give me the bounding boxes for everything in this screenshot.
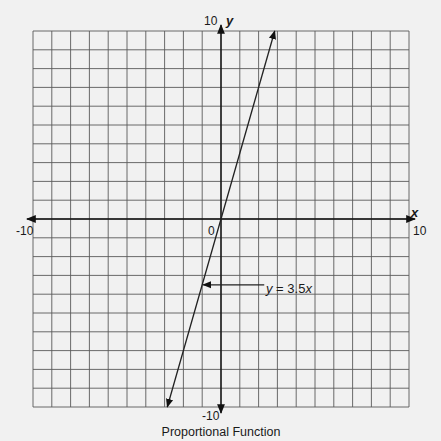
y-axis-label: y <box>225 13 234 28</box>
annotation-x-var: x <box>304 281 312 296</box>
x-min-tick-label: -10 <box>16 224 34 238</box>
chart-title: Proportional Function <box>162 425 281 439</box>
annotation-equals: = 3.5 <box>273 281 306 296</box>
y-min-tick-label: -10 <box>202 409 220 423</box>
y-max-tick-label: 10 <box>204 14 218 28</box>
proportional-function-chart: 10 y -10 x 10 0 -10 y = 3.5x Proportiona… <box>0 0 441 441</box>
x-max-tick-label: 10 <box>413 224 427 238</box>
function-annotation-label: y = 3.5x <box>265 281 312 296</box>
x-axis-label: x <box>410 205 419 220</box>
origin-label: 0 <box>208 224 215 238</box>
